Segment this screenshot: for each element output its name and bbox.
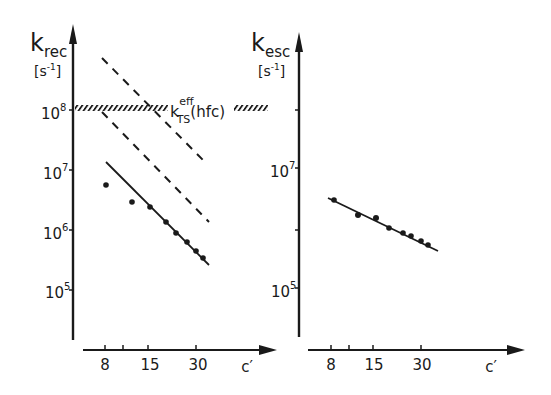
data-point — [200, 255, 206, 261]
arrow-right-icon — [507, 345, 525, 355]
data-point — [129, 199, 135, 205]
right-chart: kesc [s-1] 107 105 8 15 30 c′ — [251, 29, 525, 376]
data-point — [103, 182, 109, 188]
data-point — [147, 204, 153, 210]
kts-annotation: keffTS(hfc) — [170, 95, 225, 126]
arrow-right-icon — [259, 345, 277, 355]
arrow-up-icon — [295, 32, 303, 52]
left-chart: krec [s-1] 108 107 106 105 8 15 30 c′ ke… — [30, 24, 277, 376]
right-xtick-15: 15 — [364, 356, 383, 374]
data-point — [173, 230, 179, 236]
data-point — [184, 239, 190, 245]
data-point — [386, 225, 392, 231]
left-y-unit: [s-1] — [34, 62, 61, 79]
data-point — [163, 219, 169, 225]
chart-canvas: krec [s-1] 108 107 106 105 8 15 30 c′ ke… — [0, 0, 551, 395]
right-y-axis — [295, 32, 303, 337]
left-ytick-1e5: 105 — [45, 281, 70, 302]
data-point — [418, 238, 424, 244]
left-xtick-30: 30 — [188, 356, 207, 374]
right-xtick-30: 30 — [412, 356, 431, 374]
data-point — [400, 230, 406, 236]
left-ytick-1e7: 107 — [43, 162, 68, 183]
right-xtick-8: 8 — [326, 356, 336, 374]
right-ytick-1e7: 107 — [270, 160, 295, 181]
data-point — [355, 212, 361, 218]
left-ytick-1e8: 108 — [41, 102, 66, 123]
right-x-label: c′ — [485, 358, 497, 376]
left-ytick-1e6: 106 — [43, 222, 68, 243]
right-x-axis — [308, 345, 525, 355]
right-y-unit: [s-1] — [258, 62, 285, 79]
left-y-axis — [69, 24, 77, 340]
krec-fit-line — [106, 162, 209, 265]
data-point — [425, 242, 431, 248]
lower-dashed-line — [102, 112, 209, 222]
left-x-label: c′ — [241, 358, 253, 376]
data-point — [193, 248, 199, 254]
right-y-label: kesc — [251, 29, 290, 61]
data-point — [408, 233, 414, 239]
left-xtick-15: 15 — [140, 356, 159, 374]
arrow-up-icon — [69, 24, 77, 44]
left-y-label: krec — [30, 29, 67, 61]
right-ytick-1e5: 105 — [271, 280, 296, 301]
left-xtick-8: 8 — [100, 356, 110, 374]
data-point — [373, 215, 379, 221]
krec-data-points — [103, 182, 206, 261]
data-point — [331, 197, 337, 203]
left-x-axis — [83, 345, 277, 355]
